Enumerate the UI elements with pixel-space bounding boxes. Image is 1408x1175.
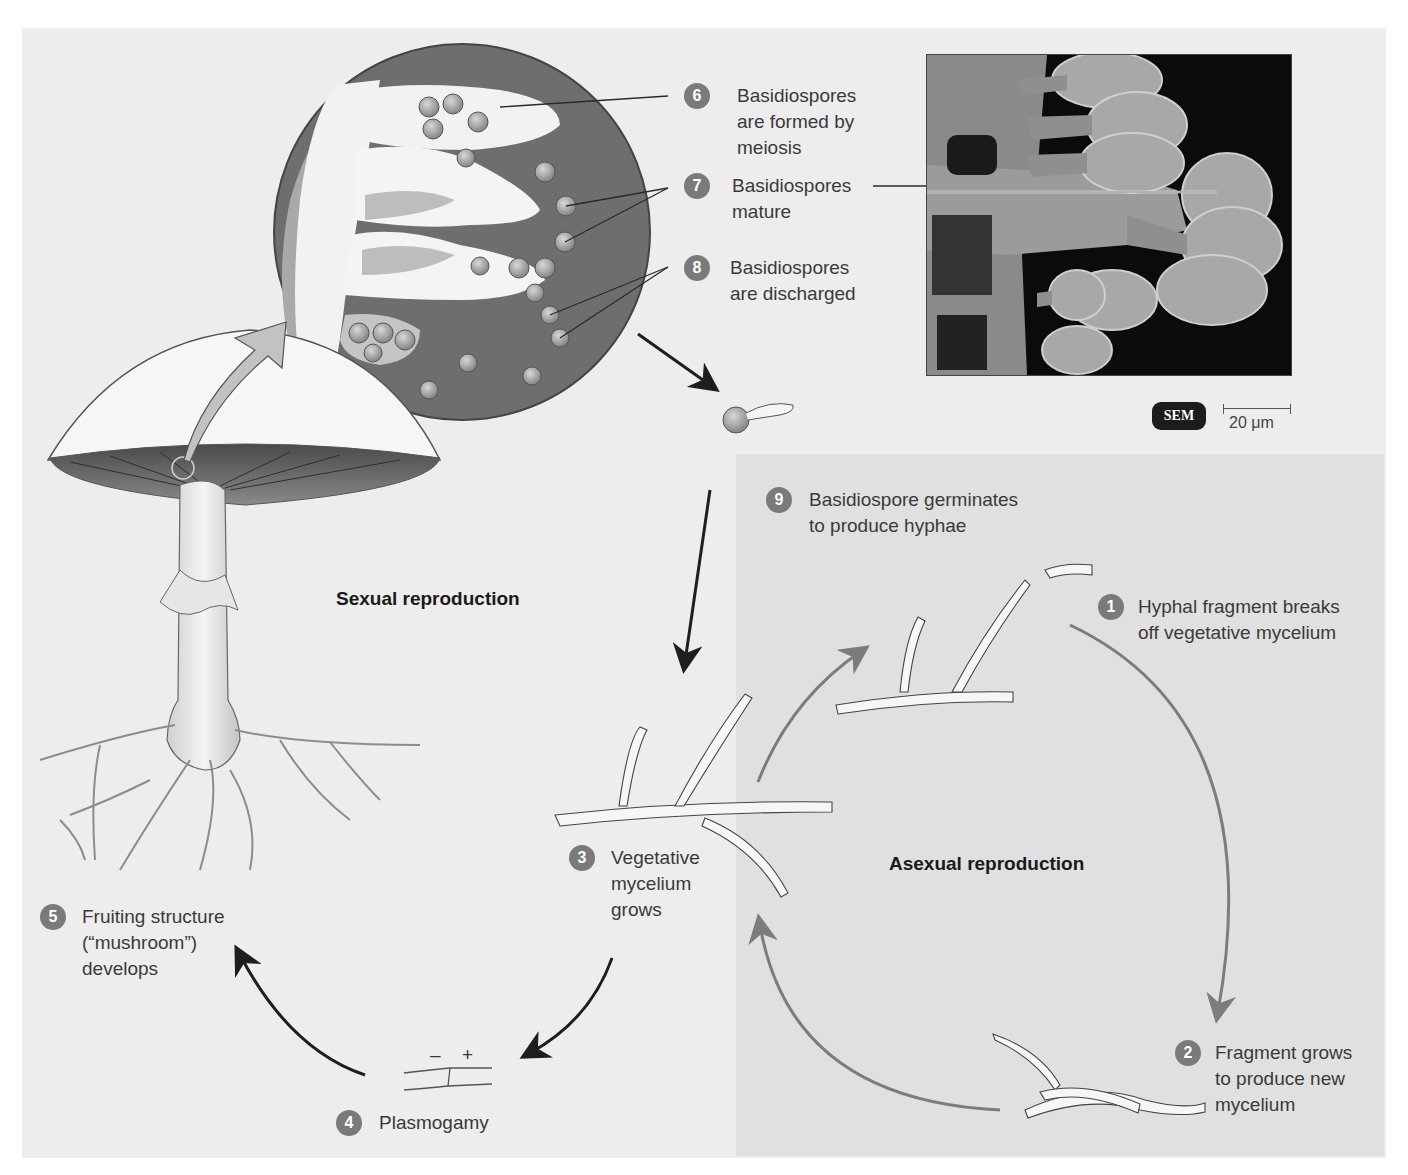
- step-1-text: Hyphal fragment breaks off vegetative my…: [1138, 594, 1340, 646]
- step-4-text: Plasmogamy: [379, 1110, 489, 1136]
- step-2-badge: 2: [1175, 1040, 1201, 1066]
- step-8-label: Basidiospores are discharged: [730, 255, 856, 307]
- step-5-label: Fruiting structure (“mushroom”) develops: [82, 904, 225, 982]
- sexual-reproduction-heading: Sexual reproduction: [336, 588, 520, 610]
- step-8-badge: 8: [684, 255, 710, 281]
- new-mycelium-fragment: [993, 1034, 1205, 1118]
- step-9-badge: 9: [766, 487, 792, 513]
- step-6-badge: 6: [684, 83, 710, 109]
- step-4-label: Plasmogamy: [379, 1110, 489, 1136]
- step-1-label: Hyphal fragment breaks off vegetative my…: [1138, 594, 1340, 646]
- step-2-label: Fragment grows to produce new mycelium: [1215, 1040, 1352, 1118]
- germinated-hyphae: [836, 564, 1092, 714]
- step-6-label: Basidiospores are formed by meiosis: [737, 83, 856, 161]
- step-3-badge: 3: [569, 845, 595, 871]
- step-4-badge: 4: [336, 1110, 362, 1136]
- step-9-text: Basidiospore germinates to produce hypha…: [809, 487, 1018, 539]
- step-9-label: Basidiospore germinates to produce hypha…: [809, 487, 1018, 539]
- step-1-badge: 1: [1098, 594, 1124, 620]
- asexual-reproduction-heading: Asexual reproduction: [889, 853, 1084, 875]
- plus-mating-type: +: [462, 1042, 473, 1068]
- step-6-text: Basidiospores are formed by meiosis: [737, 83, 856, 161]
- step-2-text: Fragment grows to produce new mycelium: [1215, 1040, 1352, 1118]
- germinating-spore: [723, 404, 793, 433]
- step-3-label: Vegetative mycelium grows: [611, 845, 700, 923]
- step-7-text: Basidiospores mature: [732, 173, 851, 225]
- plasmogamy-hyphae: [404, 1068, 492, 1090]
- step-7-label: Basidiospores mature: [732, 173, 851, 225]
- step-5-text: Fruiting structure (“mushroom”) develops: [82, 904, 225, 982]
- step-3-text: Vegetative mycelium grows: [611, 845, 700, 923]
- step-5-badge: 5: [40, 904, 66, 930]
- step-8-text: Basidiospores are discharged: [730, 255, 856, 307]
- minus-mating-type: –: [430, 1042, 441, 1068]
- step-7-badge: 7: [684, 173, 710, 199]
